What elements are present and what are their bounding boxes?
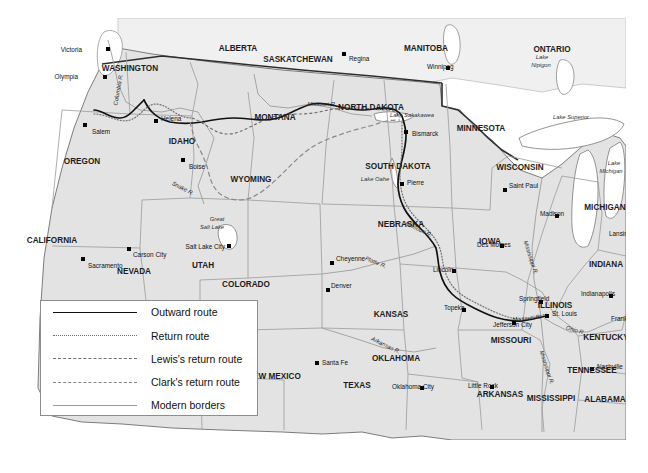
city-label: Helena: [161, 115, 182, 122]
city-label: Olympia: [55, 73, 79, 81]
water-body-label: Lake Superior: [553, 114, 590, 120]
legend-swatch-solid-line: [53, 312, 137, 313]
city-label: Winnipeg: [427, 63, 454, 71]
city-label: St. Louis: [552, 310, 577, 317]
water-body-label: Nipigon: [531, 62, 551, 68]
city-label: Pierre: [407, 179, 424, 186]
state-label: SOUTH DAKOTA: [365, 162, 430, 171]
city-label: Lansing: [609, 230, 626, 238]
state-label: COLORADO: [222, 280, 270, 289]
city-label: Salt Lake City: [186, 243, 226, 251]
state-label: NEVADA: [117, 267, 151, 276]
city-label: Madison: [540, 210, 565, 217]
state-label: IDAHO: [169, 137, 196, 146]
province-label: ONTARIO: [533, 45, 571, 54]
city-dot: [330, 261, 334, 265]
city-label: Saint Paul: [509, 182, 538, 189]
legend-item-modern-borders: Modern borders: [41, 394, 257, 417]
state-label: TEXAS: [343, 381, 371, 390]
province-label: MANITOBA: [404, 44, 448, 53]
city-dot: [227, 244, 231, 248]
city-label: Cheyenne: [336, 255, 366, 263]
city-dot: [106, 47, 110, 51]
legend-swatch-short-dash-line: [53, 358, 137, 359]
city-dot: [81, 257, 85, 261]
city-label: Bismarck: [412, 130, 439, 137]
water-body-label: Lake Oahe: [361, 176, 390, 182]
state-label: WISCONSIN: [496, 163, 543, 172]
city-label: Salem: [92, 128, 110, 135]
state-label: CALIFORNIA: [27, 236, 78, 245]
city-label: Indianapolis: [581, 290, 615, 298]
state-label: OKLAHOMA: [372, 354, 420, 363]
state-label: MICHIGAN: [584, 203, 625, 212]
state-label: ILLINOIS: [538, 301, 573, 310]
city-dot: [503, 188, 507, 192]
legend-item-lewis-return-route: Lewis's return route: [41, 347, 257, 370]
city-dot: [181, 158, 185, 162]
water-body-label: Lake: [536, 54, 549, 60]
state-label: MISSOURI: [491, 336, 532, 345]
city-dot: [154, 119, 158, 123]
city-label: Denver: [331, 282, 352, 289]
city-dot: [342, 52, 346, 56]
city-label: Santa Fe: [322, 359, 348, 366]
legend-item-return-route: Return route: [41, 324, 257, 347]
lake-nipigon: [556, 60, 574, 95]
state-label: KENTUCKY: [583, 333, 626, 342]
city-label: Topeka: [444, 304, 465, 312]
state-label: ALABAMA: [584, 395, 625, 404]
province-label: ALBERTA: [219, 44, 258, 53]
state-label: WASHINGTON: [102, 64, 158, 73]
state-label: MONTANA: [254, 113, 295, 122]
state-label: MISSISSIPPI: [527, 394, 576, 403]
legend-label: Return route: [151, 331, 209, 342]
legend-item-clark-return-route: Clark's return route: [41, 371, 257, 394]
water-body-label: Lake Sakakawea: [390, 112, 435, 118]
state-label: INDIANA: [589, 260, 623, 269]
state-label: KANSAS: [374, 310, 409, 319]
state-label: IOWA: [479, 237, 501, 246]
city-dot: [127, 247, 131, 251]
water-body-label: Michigan: [599, 168, 622, 174]
state-label: NORTH DAKOTA: [338, 103, 404, 112]
legend-label: Outward route: [151, 307, 218, 318]
river-label: Missouri R.: [308, 101, 337, 107]
city-label: Boise: [189, 163, 205, 170]
city-label: Little Rock: [468, 382, 499, 389]
legend-swatch-thin-line: [53, 405, 137, 406]
state-label: ARKANSAS: [477, 390, 524, 399]
legend-label: Modern borders: [151, 400, 225, 411]
city-label: Carson City: [133, 251, 167, 259]
city-label: Frankfort: [611, 315, 626, 322]
province-label: SASKATCHEWAN: [263, 55, 333, 64]
state-label: MINNESOTA: [457, 124, 506, 133]
state-label: UTAH: [192, 261, 214, 270]
legend-item-outward-route: Outward route: [41, 301, 257, 324]
state-label: OREGON: [64, 157, 100, 166]
city-dot: [315, 361, 319, 365]
city-dot: [400, 182, 404, 186]
state-label: TENNESSEE: [567, 366, 617, 375]
map-screenshot: VictoriaOlympiaSalemBoiseCarson CitySacr…: [0, 0, 648, 473]
city-dot: [545, 314, 549, 318]
map-legend: Outward route Return route Lewis's retur…: [40, 300, 258, 416]
legend-swatch-dotted-line: [53, 335, 137, 336]
state-label: WYOMING: [231, 175, 272, 184]
city-label: Regina: [349, 55, 370, 63]
water-body-label: Great: [210, 216, 225, 222]
city-dot: [404, 130, 408, 134]
city-dot: [83, 123, 87, 127]
city-label: Victoria: [61, 46, 83, 53]
city-dot: [326, 288, 330, 292]
water-body-label: Salt Lake: [200, 224, 225, 230]
city-dot: [103, 75, 107, 79]
city-label: Oklahoma City: [392, 383, 435, 391]
legend-label: Clark's return route: [151, 377, 240, 388]
legend-swatch-long-dash-line: [53, 382, 137, 383]
city-label: Lincoln: [433, 266, 454, 273]
legend-label: Lewis's return route: [151, 354, 242, 365]
water-body-label: Lake: [608, 160, 621, 166]
